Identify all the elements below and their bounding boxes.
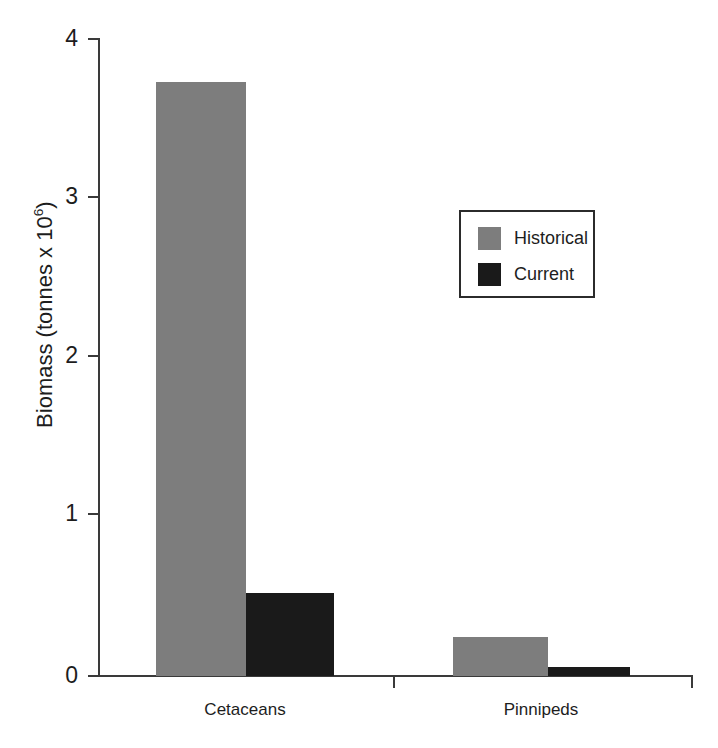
legend-label-current: Current [514,264,574,284]
y-tick-mark-0 [88,675,98,677]
y-tick-label-2: 2 [44,344,78,367]
legend-row-historical: Historical [478,226,588,250]
legend-label-historical: Historical [514,228,588,248]
y-tick-mark-3 [88,196,98,198]
y-tick-mark-4 [88,38,98,40]
y-tick-label-0: 0 [44,664,78,687]
y-tick-mark-2 [88,355,98,357]
x-tick-mark-axis-end [691,677,693,688]
y-tick-label-1: 1 [44,502,78,525]
bar-cetaceans-current [246,593,334,676]
legend-swatch-historical-icon [478,227,501,250]
legend: Historical Current [459,210,595,298]
legend-swatch-current-icon [478,263,501,286]
biomass-bar-chart: Biomass (tonnes x 106) 4 3 2 1 0 Cetacea… [0,0,718,748]
legend-row-current: Current [478,262,574,286]
x-tick-mark-group-separator [393,677,395,688]
y-tick-label-4: 4 [44,27,78,50]
bar-pinnipeds-historical [453,637,548,676]
x-category-label-pinnipeds: Pinnipeds [471,700,611,719]
y-axis-title: Biomass (tonnes x 106) [27,105,56,525]
y-axis-title-superscript: 6 [31,209,46,217]
y-tick-mark-1 [88,513,98,515]
y-axis-line [98,38,100,677]
y-axis-title-text: Biomass (tonnes x 10 [32,216,57,428]
bar-cetaceans-historical [156,82,246,676]
x-category-label-cetaceans: Cetaceans [175,700,315,719]
y-tick-label-3: 3 [44,185,78,208]
bar-pinnipeds-current [548,667,630,676]
